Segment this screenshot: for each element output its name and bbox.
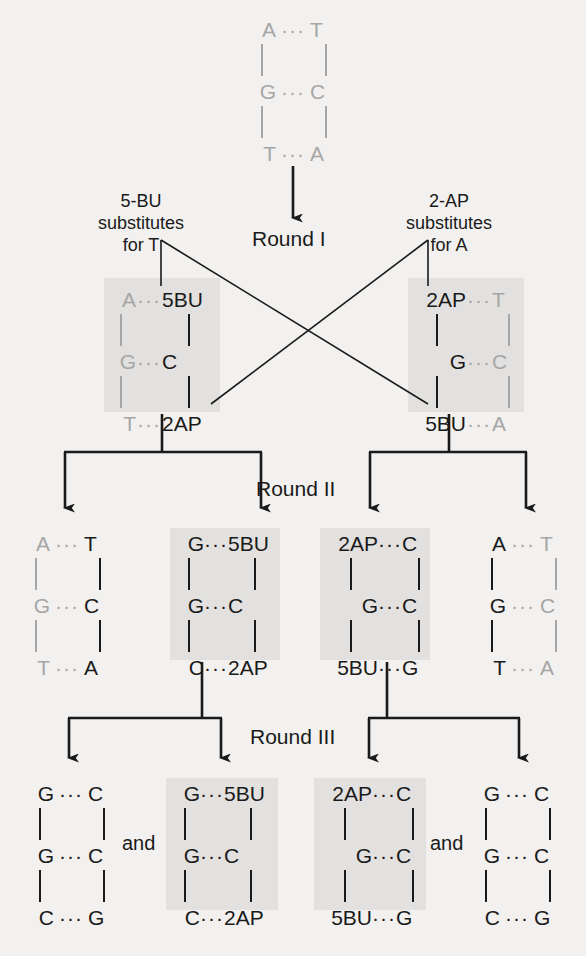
backbone-gap: [470, 806, 564, 842]
backbone-bond-left: [120, 376, 122, 408]
base-right: 2AP: [228, 657, 284, 678]
base-left: G: [20, 595, 50, 616]
backbone-bond-right: [250, 808, 252, 840]
round3-duplex-4: G···CG···CC···G: [470, 780, 564, 930]
backbone-bond-right: [412, 808, 414, 840]
backbone-bond-right: [325, 44, 327, 76]
sub-right-line1: 2-AP: [394, 190, 504, 212]
backbone-bond-right: [250, 870, 252, 902]
backbone-bond-left: [350, 558, 352, 590]
backbone-gap: [476, 618, 570, 654]
backbone-bond-right: [188, 376, 190, 408]
backbone-bond-left: [188, 620, 190, 652]
base-left: G: [168, 783, 200, 804]
base-left: C: [24, 907, 54, 928]
base-pair-row: G···C: [470, 780, 564, 806]
hydrogen-bond-dots: ···: [204, 657, 228, 678]
base-left: G: [168, 845, 200, 866]
hydrogen-bond-dots: ···: [54, 845, 88, 866]
base-left: 2AP: [316, 783, 372, 804]
hydrogen-bond-dots: ···: [276, 81, 310, 102]
base-pair-row: G···5BU: [172, 530, 284, 556]
base-left: A: [104, 289, 136, 310]
base-left: 5BU: [322, 657, 378, 678]
base-pair-row: 2AP···C: [322, 530, 434, 556]
base-left: G: [408, 351, 466, 372]
base-right: C: [396, 783, 428, 804]
backbone-bond-left: [261, 106, 263, 138]
base-pair-row: G···C: [24, 842, 118, 868]
backbone-gap: [24, 868, 118, 904]
backbone-gap: [408, 374, 524, 410]
round-label-three: Round III: [250, 726, 335, 747]
hydrogen-bond-dots: ···: [54, 783, 88, 804]
hydrogen-bond-dots: ···: [506, 657, 540, 678]
substitution-label-right: 2-AP substitutes for A: [394, 190, 504, 256]
hydrogen-bond-dots: ···: [136, 413, 162, 434]
base-right: 5BU: [162, 289, 220, 310]
backbone-bond-right: [555, 620, 557, 652]
backbone-bond-right: [103, 808, 105, 840]
base-pair-row: G···5BU: [168, 780, 280, 806]
backbone-gap: [470, 868, 564, 904]
backbone-bond-left: [39, 870, 41, 902]
base-right: C: [162, 351, 220, 372]
backbone-bond-right: [99, 558, 101, 590]
backbone-bond-right: [103, 870, 105, 902]
base-right: C: [228, 595, 284, 616]
backbone-bond-right: [412, 870, 414, 902]
base-left: G: [104, 351, 136, 372]
backbone-bond-right: [254, 620, 256, 652]
base-right: 2AP: [162, 413, 220, 434]
hydrogen-bond-dots: ···: [372, 845, 396, 866]
base-left: 2AP: [408, 289, 466, 310]
base-left: G: [172, 595, 204, 616]
base-pair-row: G···C: [246, 78, 340, 104]
base-pair-row: G···C: [104, 348, 220, 374]
base-pair-row: G···C: [316, 842, 428, 868]
round3-duplex-3: 2AP···CG···C5BU···G: [316, 780, 428, 930]
backbone-bond-left: [184, 808, 186, 840]
base-pair-row: G···C: [168, 842, 280, 868]
base-left: G: [246, 81, 276, 102]
base-pair-row: T···A: [246, 140, 340, 166]
base-left: T: [476, 657, 506, 678]
base-right: C: [402, 533, 434, 554]
base-left: G: [322, 595, 378, 616]
base-left: G: [470, 845, 500, 866]
backbone-gap: [104, 312, 220, 348]
backbone-gap: [168, 868, 280, 904]
base-pair-row: G···C: [408, 348, 524, 374]
base-right: C: [540, 595, 570, 616]
base-right: A: [310, 143, 340, 164]
base-pair-row: G···C: [476, 592, 570, 618]
backbone-gap: [322, 556, 434, 592]
diagram-canvas: Round I Round II Round III 5-BU substitu…: [0, 0, 586, 956]
base-right: C: [402, 595, 434, 616]
backbone-gap: [316, 806, 428, 842]
hydrogen-bond-dots: ···: [200, 783, 224, 804]
round2-duplex-1: A···TG···CT···A: [20, 530, 114, 680]
base-right: C: [84, 595, 114, 616]
hydrogen-bond-dots: ···: [466, 351, 492, 372]
base-pair-row: G···C: [322, 592, 434, 618]
base-right: G: [396, 907, 428, 928]
hydrogen-bond-dots: ···: [378, 657, 402, 678]
hydrogen-bond-dots: ···: [506, 533, 540, 554]
base-right: C: [88, 845, 118, 866]
base-pair-row: A···T: [20, 530, 114, 556]
hydrogen-bond-dots: ···: [500, 907, 534, 928]
base-left: G: [316, 845, 372, 866]
hydrogen-bond-dots: ···: [500, 783, 534, 804]
base-right: 5BU: [228, 533, 284, 554]
base-left: A: [20, 533, 50, 554]
base-right: G: [88, 907, 118, 928]
backbone-gap: [104, 374, 220, 410]
hydrogen-bond-dots: ···: [136, 289, 162, 310]
base-right: A: [84, 657, 114, 678]
base-pair-row: C···G: [24, 904, 118, 930]
backbone-bond-left: [35, 620, 37, 652]
base-left: G: [172, 533, 204, 554]
base-pair-row: 5BU···A: [408, 410, 524, 436]
base-pair-row: 5BU···G: [316, 904, 428, 930]
